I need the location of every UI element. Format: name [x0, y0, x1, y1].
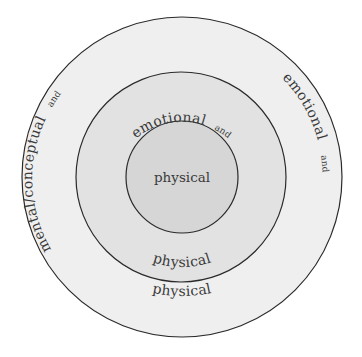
outer-right-and-text: and	[319, 154, 331, 172]
inner-physical-label: physical	[154, 169, 210, 185]
concentric-layers-diagram: physical emotional and physical mental/c…	[0, 0, 362, 357]
